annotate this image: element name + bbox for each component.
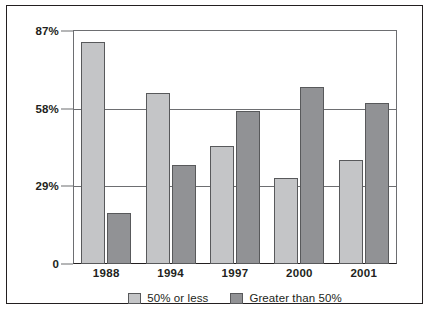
bar-group [138, 31, 202, 264]
bar [300, 87, 324, 264]
bar [107, 213, 131, 264]
y-tick-label: 58% [35, 103, 59, 115]
bar [146, 93, 170, 264]
chart-legend: 50% or lessGreater than 50% [73, 289, 397, 307]
y-tick-label: 0 [52, 258, 59, 270]
legend-item: Greater than 50% [230, 292, 341, 304]
bar [172, 165, 196, 264]
bar [210, 146, 234, 264]
x-tick-label: 2001 [350, 267, 377, 279]
bar-groups [74, 31, 396, 264]
y-tick-mark [61, 186, 73, 187]
bar-group [203, 31, 267, 264]
y-axis: 029%58%87% [7, 6, 73, 268]
legend-swatch-icon [128, 293, 141, 304]
bar-group [332, 31, 396, 264]
bar-chart-figure: 029%58%87% 19881994199720002001 50% or l… [0, 0, 430, 311]
legend-swatch-icon [230, 293, 243, 304]
bar [339, 160, 363, 264]
x-tick-label: 2000 [286, 267, 313, 279]
legend-item: 50% or less [128, 292, 208, 304]
bar [274, 178, 298, 264]
legend-label: 50% or less [147, 292, 208, 304]
bar-group [74, 31, 138, 264]
x-tick-label: 1994 [157, 267, 184, 279]
x-axis: 19881994199720002001 [74, 267, 396, 287]
y-tick-label: 87% [35, 25, 59, 37]
bar-group [267, 31, 331, 264]
y-tick-label: 29% [35, 180, 59, 192]
bar [236, 111, 260, 264]
bar [365, 103, 389, 264]
bar [81, 42, 105, 264]
x-tick-label: 1988 [93, 267, 120, 279]
x-tick-label: 1997 [222, 267, 249, 279]
y-tick-mark [61, 264, 73, 265]
chart-border-frame: 029%58%87% 19881994199720002001 50% or l… [6, 5, 423, 304]
y-tick-mark [61, 31, 73, 32]
legend-label: Greater than 50% [249, 292, 341, 304]
y-tick-mark [61, 108, 73, 109]
